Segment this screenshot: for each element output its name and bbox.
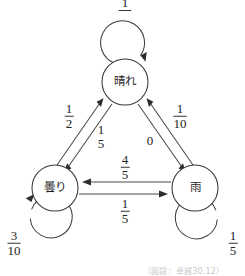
edge-label-cloudy-to-sunny: 1 2 bbox=[65, 102, 74, 131]
edge-label-rain-to-cloudy: 4 5 bbox=[121, 153, 130, 182]
edge-label-cloudy-to-sunny-numerator: 1 bbox=[65, 102, 74, 117]
self-loop-sunny bbox=[101, 21, 149, 63]
edge-label-cloudy-self-loop-denominator: 10 bbox=[8, 244, 21, 258]
edge-label-rain-to-sunny-numerator: 1 bbox=[174, 102, 187, 117]
node-label-cloudy: 曇り bbox=[44, 182, 65, 194]
edge-rain-to-cloudy-arrowhead bbox=[82, 178, 91, 185]
edge-label-cloudy-to-rain-numerator: 1 bbox=[121, 197, 130, 212]
node-label-rain: 雨 bbox=[190, 182, 201, 194]
figure-caption: （図説：卓越30.12） bbox=[143, 265, 224, 276]
edge-label-cloudy-to-rain: 1 5 bbox=[121, 197, 130, 226]
edge-label-rain-self-loop-denominator: 5 bbox=[229, 244, 238, 258]
edge-cloudy-to-sunny-arrowhead bbox=[96, 96, 106, 107]
edge-label-rain-to-cloudy-denominator: 5 bbox=[121, 168, 130, 182]
self-loop-sunny-arrowhead bbox=[139, 50, 149, 61]
edge-label-cloudy-to-rain-denominator: 5 bbox=[121, 212, 130, 226]
edge-label-sunny-to-cloudy-denominator: 5 bbox=[97, 137, 106, 151]
edge-label-sunny-to-cloudy-numerator: 1 bbox=[97, 123, 106, 137]
edge-label-rain-to-cloudy-numerator: 4 bbox=[121, 153, 130, 168]
self-loop-sunny-arc bbox=[101, 21, 145, 63]
edge-label-rain-to-sunny-denominator: 10 bbox=[174, 117, 187, 131]
edge-cloudy-to-sunny-line bbox=[57, 100, 102, 165]
edge-label-rain-self-loop: 1 5 bbox=[229, 229, 238, 258]
edge-label-cloudy-self-loop: 3 10 bbox=[8, 229, 21, 258]
edge-label-cloudy-self-loop-numerator: 3 bbox=[8, 229, 21, 244]
node-label-sunny: 晴れ bbox=[114, 76, 135, 88]
edge-label-sunny-to-cloudy: 1 5 bbox=[97, 123, 106, 151]
edge-label-sunny-self-loop-denominator: 10 bbox=[119, 11, 132, 14]
edge-label-sunny-to-rain: 0 bbox=[147, 134, 154, 147]
edge-cloudy-to-rain-arrowhead bbox=[159, 190, 168, 197]
edge-rain-to-sunny-arrowhead bbox=[144, 96, 154, 107]
edge-label-rain-to-sunny: 1 10 bbox=[174, 102, 187, 131]
edge-label-cloudy-to-sunny-denominator: 2 bbox=[65, 117, 74, 131]
edge-label-sunny-self-loop-numerator: 1 bbox=[119, 0, 132, 11]
edge-label-sunny-self-loop: 1 10 bbox=[119, 0, 132, 14]
edge-label-rain-self-loop-numerator: 1 bbox=[229, 229, 238, 244]
